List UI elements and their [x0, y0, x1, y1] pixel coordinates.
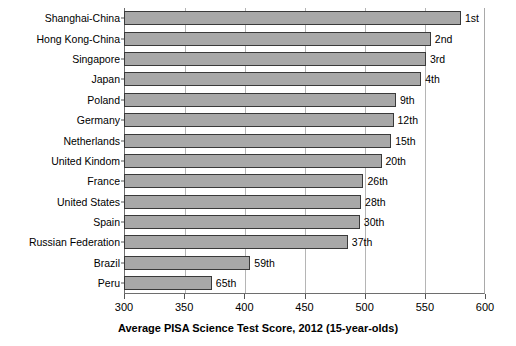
- rank-annotation: 65th: [212, 277, 236, 289]
- x-axis-tick-label: 450: [295, 301, 313, 313]
- rank-annotation: 3rd: [426, 53, 445, 65]
- bar-row: Peru65th: [0, 273, 516, 293]
- rank-annotation: 59th: [250, 257, 274, 269]
- category-label: Russian Federation: [29, 236, 120, 248]
- bar: [124, 113, 394, 127]
- x-axis-tick-label: 550: [416, 301, 434, 313]
- x-axis-title: Average PISA Science Test Score, 2012 (1…: [0, 322, 516, 334]
- x-axis-tick-label: 400: [235, 301, 253, 313]
- x-axis-tick-label: 500: [355, 301, 373, 313]
- bar-row: United States28th: [0, 192, 516, 212]
- bar-row: United Kindom20th: [0, 151, 516, 171]
- bar: [124, 174, 363, 188]
- rank-annotation: 28th: [361, 196, 385, 208]
- category-label: Poland: [87, 94, 120, 106]
- bar: [124, 11, 461, 25]
- x-axis-tick: [244, 294, 245, 299]
- category-label: Hong Kong-China: [37, 33, 120, 45]
- bar-row: Poland9th: [0, 90, 516, 110]
- bar-row: France26th: [0, 171, 516, 191]
- category-label: United States: [57, 196, 120, 208]
- rank-annotation: 15th: [391, 135, 415, 147]
- x-axis-tick: [425, 294, 426, 299]
- bar-row: Netherlands15th: [0, 130, 516, 150]
- bar: [124, 256, 250, 270]
- bar-row: Hong Kong-China2nd: [0, 28, 516, 48]
- bar: [124, 195, 361, 209]
- bar: [124, 276, 212, 290]
- category-label: Peru: [98, 277, 120, 289]
- category-label: Japan: [91, 73, 120, 85]
- category-label: Brazil: [94, 257, 120, 269]
- rank-annotation: 37th: [348, 236, 372, 248]
- bar-row: Spain30th: [0, 212, 516, 232]
- x-axis-ticks: [0, 294, 516, 300]
- rank-annotation: 12th: [394, 114, 418, 126]
- bar-row: Japan4th: [0, 69, 516, 89]
- category-label: Singapore: [72, 53, 120, 65]
- bar: [124, 215, 360, 229]
- category-label: Germany: [77, 114, 120, 126]
- bar: [124, 32, 431, 46]
- x-axis-tick: [305, 294, 306, 299]
- rank-annotation: 2nd: [431, 33, 453, 45]
- x-axis-tick: [485, 294, 486, 299]
- x-axis-tick-label: 300: [115, 301, 133, 313]
- category-label: Netherlands: [63, 135, 120, 147]
- bar-row: Germany12th: [0, 110, 516, 130]
- bar: [124, 72, 421, 86]
- x-axis-tick: [365, 294, 366, 299]
- x-axis-tick: [124, 294, 125, 299]
- category-label: United Kindom: [51, 155, 120, 167]
- rank-annotation: 1st: [461, 12, 479, 24]
- bar: [124, 52, 426, 66]
- rank-annotation: 26th: [363, 175, 387, 187]
- category-label: Spain: [93, 216, 120, 228]
- rank-annotation: 30th: [360, 216, 384, 228]
- pisa-science-score-bar-chart: Shanghai-China1stHong Kong-China2ndSinga…: [0, 0, 516, 346]
- bar-row: Singapore3rd: [0, 49, 516, 69]
- bar: [124, 93, 396, 107]
- bar: [124, 154, 382, 168]
- category-label: Shanghai-China: [45, 12, 120, 24]
- bar: [124, 235, 348, 249]
- bar-row: Shanghai-China1st: [0, 8, 516, 28]
- bar-rows: Shanghai-China1stHong Kong-China2ndSinga…: [0, 8, 516, 294]
- bar-row: Brazil59th: [0, 253, 516, 273]
- rank-annotation: 4th: [421, 73, 440, 85]
- rank-annotation: 9th: [396, 94, 415, 106]
- bar-row: Russian Federation37th: [0, 232, 516, 252]
- x-axis-tick-label: 600: [476, 301, 494, 313]
- category-label: France: [87, 175, 120, 187]
- bar: [124, 134, 391, 148]
- x-axis-tick-label: 350: [175, 301, 193, 313]
- rank-annotation: 20th: [382, 155, 406, 167]
- x-axis-tick: [184, 294, 185, 299]
